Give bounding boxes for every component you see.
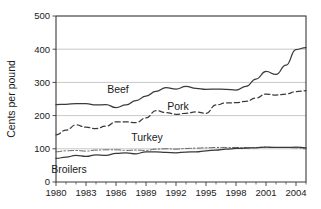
x-tick-label-1998: 1998	[225, 187, 246, 198]
line-chart: 198019831986198919921995199820012004 010…	[0, 0, 321, 209]
x-tick-label-2001: 2001	[255, 187, 276, 198]
x-tick-label-1983: 1983	[75, 187, 96, 198]
y-tick-label-300: 300	[34, 77, 50, 88]
y-tick-label-500: 500	[34, 10, 50, 21]
y-axis-title: Cents per pound	[5, 60, 17, 138]
x-axis-tick-labels: 198019831986198919921995199820012004	[45, 187, 306, 198]
y-tick-label-400: 400	[34, 44, 50, 55]
x-tick-label-1992: 1992	[165, 187, 186, 198]
y-tick-label-100: 100	[34, 143, 50, 154]
x-tick-label-2004: 2004	[285, 187, 306, 198]
x-tick-label-1980: 1980	[45, 187, 66, 198]
y-tick-label-0: 0	[45, 176, 50, 187]
chart-container: 198019831986198919921995199820012004 010…	[0, 0, 321, 209]
x-tick-label-1989: 1989	[135, 187, 156, 198]
y-tick-label-200: 200	[34, 110, 50, 121]
pork-label: Pork	[167, 100, 189, 112]
x-tick-label-1995: 1995	[195, 187, 216, 198]
turkey-label: Turkey	[131, 131, 163, 143]
beef-label: Beef	[107, 83, 129, 95]
broilers-label: Broilers	[51, 163, 87, 175]
x-tick-label-1986: 1986	[105, 187, 126, 198]
